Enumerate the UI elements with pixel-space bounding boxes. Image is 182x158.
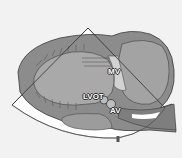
left-atrium [118,40,170,104]
heart-illustration [0,0,182,158]
label-mv: MV [108,68,120,76]
bottom-marker-icon [117,136,120,142]
diagram-canvas: MV LVOT AV [0,0,182,158]
label-av: AV [110,107,121,115]
label-lvot: LVOT [83,93,104,101]
